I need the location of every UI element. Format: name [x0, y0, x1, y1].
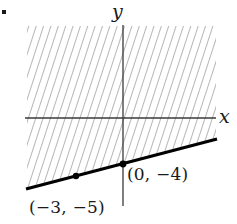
- plotted-point-intercept: [120, 161, 127, 168]
- y-axis-label: y: [112, 2, 123, 21]
- point-label-y-intercept: (0, −4): [127, 166, 188, 183]
- coordinate-plane-svg: [0, 0, 237, 224]
- point-label-minus3-minus5: (−3, −5): [29, 199, 105, 216]
- inequality-graph-figure: y x (0, −4) (−3, −5): [0, 0, 237, 224]
- plotted-point-minus3-minus5: [73, 173, 79, 179]
- x-axis-label: x: [219, 107, 230, 126]
